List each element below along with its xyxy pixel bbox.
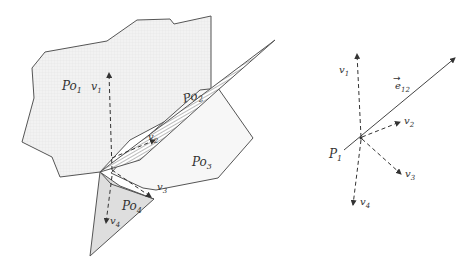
vector-v1-right [357, 54, 361, 137]
label-v3-right: v3 [405, 168, 416, 182]
label-v2-right: v2 [404, 115, 415, 129]
vector-v2-right [362, 122, 400, 137]
edge-arrow-overline: → [393, 73, 401, 83]
label-p1: P1 [328, 147, 342, 163]
label-v4-right: v4 [360, 196, 370, 210]
vector-v3-right [362, 139, 401, 174]
diagram-canvas: Po1 v1 Po2 v2 Po3 v3 Po4 v4 v1 e12 → v2 … [0, 0, 471, 270]
point-p1 [360, 137, 363, 140]
right-figure: v1 e12 → v2 P1 v3 v4 [328, 54, 455, 210]
left-figure: Po1 v1 Po2 v2 Po3 v3 Po4 v4 [22, 16, 275, 256]
label-v1-right: v1 [339, 64, 349, 78]
